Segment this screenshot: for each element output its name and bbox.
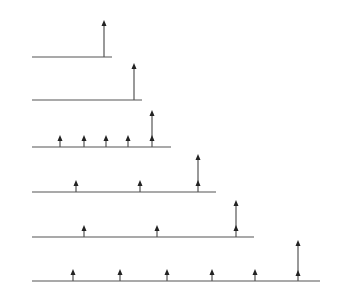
arrowhead-icon — [234, 225, 239, 231]
arrowhead-icon — [165, 269, 170, 275]
arrowhead-icon — [155, 225, 160, 231]
arrowhead-icon — [150, 135, 155, 141]
arrowhead-icon — [71, 269, 76, 275]
arrowhead-icon — [296, 270, 301, 276]
arrowhead-icon — [74, 180, 79, 186]
arrowhead-icon — [210, 269, 215, 275]
impulse-row-5 — [32, 200, 254, 237]
impulse-row-6 — [32, 240, 320, 281]
arrowhead-icon — [126, 135, 131, 141]
impulse-train-diagram — [0, 0, 344, 296]
arrowhead-icon — [58, 135, 63, 141]
impulse-row-4 — [32, 154, 216, 192]
arrowhead-icon — [118, 269, 123, 275]
arrowhead-icon — [82, 135, 87, 141]
arrowhead-icon — [196, 180, 201, 186]
arrowhead-icon — [104, 135, 109, 141]
arrowhead-icon — [234, 200, 239, 206]
arrowhead-icon — [82, 225, 87, 231]
arrowhead-icon — [138, 180, 143, 186]
arrowhead-icon — [102, 20, 107, 26]
arrowhead-icon — [150, 110, 155, 116]
arrowhead-icon — [196, 154, 201, 160]
arrowhead-icon — [253, 269, 258, 275]
arrowhead-icon — [132, 63, 137, 69]
impulse-row-2 — [32, 63, 142, 100]
arrowhead-icon — [296, 240, 301, 246]
impulse-row-3 — [32, 110, 171, 147]
impulse-row-1 — [32, 20, 112, 57]
